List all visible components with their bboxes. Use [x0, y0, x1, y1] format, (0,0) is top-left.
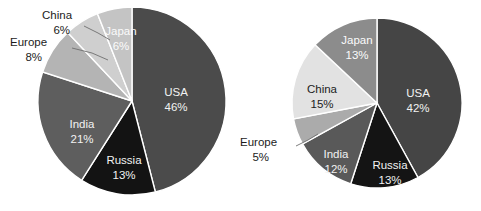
slice-value-usa-2: 42% [406, 102, 429, 114]
charts-canvas: USA 46% Russia 13% India 21% Europe 8% C… [0, 0, 481, 211]
slice-label-india: India [70, 118, 96, 130]
slice-label-india-2: India [324, 148, 350, 160]
slice-value-usa: 46% [164, 101, 187, 113]
slice-value-india: 21% [70, 133, 93, 145]
pie-chart-figure: USA 46% Russia 13% India 21% Europe 8% C… [0, 0, 481, 211]
slice-value-china-2: 15% [310, 98, 333, 110]
slice-value-japan: 6% [113, 40, 130, 52]
callout-label-europe: Europe [10, 36, 47, 48]
callout-value-china: 6% [53, 24, 70, 36]
callout-value-europe-2: 5% [252, 151, 269, 163]
slice-label-japan: Japan [105, 25, 136, 37]
slice-label-usa: USA [164, 86, 188, 98]
slice-value-india-2: 12% [324, 163, 347, 175]
slice-label-japan-2: Japan [341, 34, 372, 46]
callout-label-china: China [42, 9, 73, 21]
slice-label-usa-2: USA [406, 87, 430, 99]
slice-value-japan-2: 13% [345, 49, 368, 61]
slice-value-russia: 13% [112, 169, 135, 181]
slice-label-china-2: China [307, 83, 338, 95]
callout-label-europe-2: Europe [240, 136, 277, 148]
slice-label-russia-2: Russia [372, 159, 408, 171]
slice-value-russia-2: 13% [378, 174, 401, 186]
callout-value-europe: 8% [25, 51, 42, 63]
slice-label-russia: Russia [106, 154, 142, 166]
